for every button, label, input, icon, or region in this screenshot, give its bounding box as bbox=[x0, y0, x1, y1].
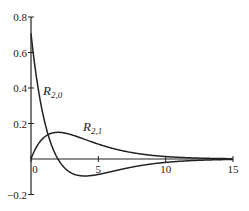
y-tick-label: 0.6 bbox=[13, 47, 27, 59]
y-tick-label: 0.2 bbox=[13, 118, 27, 130]
y-tick-label: −0.2 bbox=[7, 189, 27, 201]
series-label-2-0: R2,0 bbox=[42, 83, 63, 100]
curves bbox=[31, 33, 233, 176]
series-line-2-1 bbox=[31, 132, 233, 159]
y-tick-label: 0.4 bbox=[13, 82, 27, 94]
x-tick-label: 5 bbox=[96, 163, 102, 175]
x-tick-label: 0 bbox=[32, 163, 38, 175]
y-tick-label: 0.8 bbox=[13, 11, 27, 23]
x-tick-label: 10 bbox=[160, 163, 172, 175]
series-labels: R2,0R2,1 bbox=[42, 83, 102, 136]
series-label-2-1: R2,1 bbox=[82, 119, 102, 136]
series-line-2-0 bbox=[31, 33, 233, 176]
x-tick-label: 15 bbox=[228, 163, 240, 175]
line-chart: −0.20.20.40.60.8051015 R2,0R2,1 bbox=[0, 0, 249, 211]
